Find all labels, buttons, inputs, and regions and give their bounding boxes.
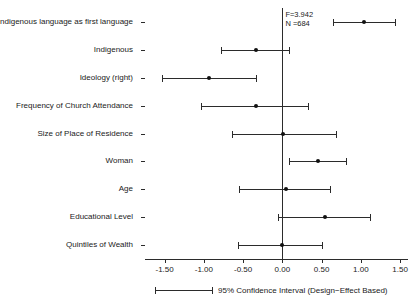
y-axis-label: Indigenous language as first language (0, 18, 133, 26)
x-axis-line (145, 259, 408, 260)
estimate-point (280, 243, 284, 247)
estimate-point (316, 159, 320, 163)
x-axis-tick (400, 259, 401, 263)
ci-upper-cap (370, 214, 371, 221)
statistics-annotation: F=3.942 N =684 (285, 10, 313, 29)
ci-lower-cap (289, 158, 290, 165)
ci-lower-cap (221, 47, 222, 54)
y-axis-tick (141, 50, 145, 51)
x-axis-tick (165, 259, 166, 263)
y-axis-tick (141, 161, 145, 162)
legend: 95% Confidence Interval (Design−Effect B… (155, 286, 388, 295)
y-axis-label: Age (119, 185, 133, 193)
coefficient-plot: Indigenous language as first languageInd… (0, 0, 416, 308)
ci-upper-cap (322, 242, 323, 249)
y-axis-label: Ideology (right) (80, 74, 133, 82)
y-axis-label: Educational Level (70, 213, 133, 221)
ci-lower-cap (238, 242, 239, 249)
x-axis-tick-label: 1.50 (392, 265, 408, 274)
ci-lower-cap (201, 103, 202, 110)
estimate-point (281, 132, 285, 136)
ci-upper-cap (256, 75, 257, 82)
sample-size-text: N =684 (285, 19, 313, 28)
x-axis-tick-label: -0.50 (234, 265, 252, 274)
y-axis-tick (141, 245, 145, 246)
x-axis-tick-label: 0.50 (314, 265, 330, 274)
ci-upper-cap (308, 103, 309, 110)
x-axis-tick-label: 1.00 (353, 265, 369, 274)
f-statistic-text: F=3.942 (285, 10, 313, 19)
x-axis-tick-label: -1.50 (156, 265, 174, 274)
ci-lower-cap (239, 186, 240, 193)
ci-lower-cap (232, 131, 233, 138)
y-axis-tick (141, 189, 145, 190)
x-axis-tick (243, 259, 244, 263)
legend-label: 95% Confidence Interval (Design−Effect B… (218, 286, 388, 295)
y-axis-tick (141, 78, 145, 79)
estimate-point (254, 104, 258, 108)
estimate-point (323, 215, 327, 219)
x-axis-tick (322, 259, 323, 263)
y-axis-label: Frequency of Church Attendance (16, 102, 133, 110)
x-axis-tick (361, 259, 362, 263)
y-axis-label: Quintiles of Wealth (66, 241, 133, 249)
y-axis-label: Indigenous (94, 46, 133, 54)
legend-ci-symbol-icon (155, 287, 213, 295)
estimate-point (362, 20, 366, 24)
estimate-point (207, 76, 211, 80)
plot-area: Indigenous language as first languageInd… (145, 8, 408, 259)
x-axis-tick-label: 0.00 (275, 265, 291, 274)
ci-upper-cap (330, 186, 331, 193)
x-axis-tick (204, 259, 205, 263)
ci-upper-cap (395, 19, 396, 26)
ci-upper-cap (336, 131, 337, 138)
ci-upper-cap (289, 47, 290, 54)
estimate-point (254, 48, 258, 52)
ci-lower-cap (162, 75, 163, 82)
ci-lower-cap (278, 214, 279, 221)
y-axis-label: Size of Place of Residence (37, 130, 133, 138)
y-axis-tick (141, 22, 145, 23)
x-axis-tick (282, 259, 283, 263)
y-axis-tick (141, 134, 145, 135)
y-axis-label: Woman (106, 157, 133, 165)
x-axis-tick-label: -1.00 (195, 265, 213, 274)
y-axis-tick (141, 217, 145, 218)
ci-upper-cap (346, 158, 347, 165)
ci-lower-cap (333, 19, 334, 26)
estimate-point (284, 187, 288, 191)
y-axis-tick (141, 106, 145, 107)
